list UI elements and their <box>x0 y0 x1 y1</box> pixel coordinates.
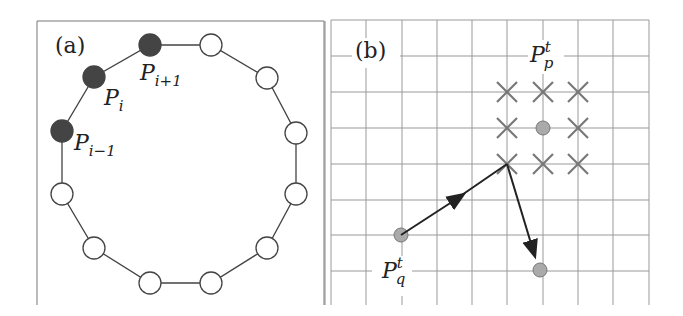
polygon-node <box>83 66 105 88</box>
panel-a: (a) Pi+1 Pi Pi−1 <box>37 21 324 305</box>
polygon-node <box>256 67 278 89</box>
polygon-node <box>200 34 222 56</box>
arrow-icon <box>507 164 533 250</box>
polygon-node <box>83 237 105 259</box>
polygon-node <box>51 120 73 142</box>
polygon-node <box>285 183 307 205</box>
polygon-node <box>285 122 307 144</box>
point-target <box>533 263 547 277</box>
polygon-node <box>139 34 161 56</box>
label-p-i-minus-1: Pi−1 <box>73 130 116 160</box>
polygon-node <box>200 272 222 294</box>
figure: (a) Pi+1 Pi Pi−1 (b) Ptp Ptq <box>0 0 683 316</box>
label-p-i: Pi <box>103 85 124 115</box>
panel-a-label: (a) <box>55 33 85 58</box>
polygon-node <box>139 272 161 294</box>
label-p-q-t: Ptq <box>381 254 405 288</box>
polygon-node <box>256 237 278 259</box>
polygon-node <box>51 183 73 205</box>
panel-b-label: (b) <box>355 38 386 63</box>
point-p-p <box>536 121 550 135</box>
arrow-icon <box>401 198 458 235</box>
panel-b: (b) Ptp Ptq <box>325 20 649 305</box>
label-p-p-t: Ptp <box>529 38 554 72</box>
label-p-i-plus-1: Pi+1 <box>139 60 182 90</box>
panel-a-frame <box>37 21 324 305</box>
